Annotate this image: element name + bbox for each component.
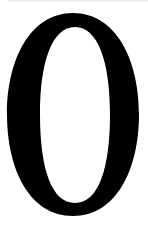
zero-shape-icon	[0, 0, 148, 232]
digit-zero-glyph: 0	[0, 0, 148, 232]
